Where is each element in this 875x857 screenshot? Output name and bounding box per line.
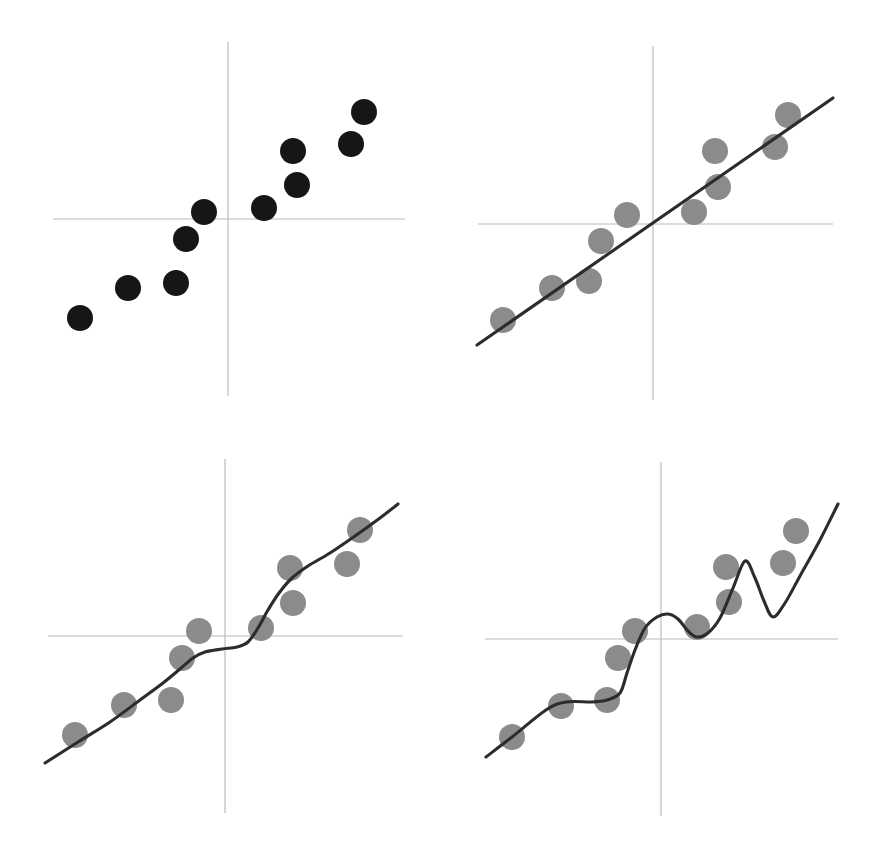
- panel-4-overfit: [438, 430, 875, 857]
- panel-3-smooth-fit: [0, 430, 437, 857]
- panel-1-plot-area: [0, 0, 437, 430]
- fit-curve-smooth-spline: [45, 504, 398, 763]
- fit-curve-linear: [477, 98, 833, 345]
- data-point: [351, 99, 377, 125]
- data-point-group: [490, 102, 801, 333]
- data-point: [588, 228, 614, 254]
- data-point: [191, 199, 217, 225]
- data-point-group: [67, 99, 377, 331]
- data-point: [713, 554, 739, 580]
- data-point: [67, 305, 93, 331]
- data-point: [158, 687, 184, 713]
- fit-curve-interpolating-wiggly: [486, 504, 838, 757]
- data-point: [186, 618, 212, 644]
- data-point: [681, 199, 707, 225]
- data-point: [115, 275, 141, 301]
- data-point: [770, 550, 796, 576]
- data-point: [277, 555, 303, 581]
- data-point: [284, 172, 310, 198]
- data-point: [702, 138, 728, 164]
- data-point: [251, 195, 277, 221]
- four-panel-scatter-figure: [0, 0, 875, 857]
- panel-3-plot-area: [0, 430, 437, 857]
- data-point-group: [499, 518, 809, 750]
- data-point: [280, 138, 306, 164]
- data-point: [280, 590, 306, 616]
- data-point: [716, 589, 742, 615]
- panel-1-raw-scatter: [0, 0, 437, 430]
- data-point: [173, 226, 199, 252]
- data-point: [338, 131, 364, 157]
- panel-4-plot-area: [438, 430, 875, 857]
- data-point: [783, 518, 809, 544]
- panel-2-plot-area: [438, 0, 875, 430]
- data-point: [605, 645, 631, 671]
- data-point: [163, 270, 189, 296]
- panel-2-linear-fit: [438, 0, 875, 430]
- data-point: [614, 202, 640, 228]
- data-point-group: [62, 517, 373, 748]
- data-point: [334, 551, 360, 577]
